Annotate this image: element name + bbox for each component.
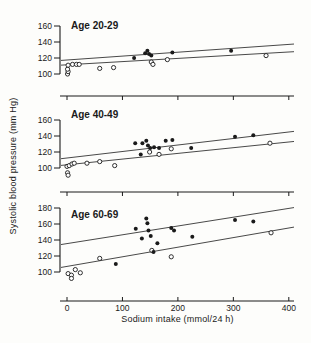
data-point-filled xyxy=(157,146,161,150)
data-point-open xyxy=(264,54,268,58)
data-point-open xyxy=(78,271,82,275)
y-tick-label: 140 xyxy=(38,235,52,245)
data-point-open xyxy=(269,231,273,235)
data-point-open xyxy=(85,161,89,165)
data-point-filled xyxy=(147,228,151,232)
y-tick-label: 160 xyxy=(38,115,52,125)
data-point-filled xyxy=(144,216,148,220)
lower-regression xyxy=(61,227,294,267)
y-tick-label: 100 xyxy=(38,69,52,79)
data-point-open xyxy=(113,164,117,168)
data-point-open xyxy=(151,62,155,66)
data-point-filled xyxy=(170,138,174,142)
data-point-filled xyxy=(133,141,137,145)
data-point-filled xyxy=(233,218,237,222)
data-point-filled xyxy=(140,141,144,145)
data-point-filled xyxy=(172,228,176,232)
x-axis-title: Sodium intake (mmol/24 h) xyxy=(60,314,295,324)
panel-title: Age 20-29 xyxy=(71,20,119,31)
data-point-filled xyxy=(139,152,143,156)
data-point-filled xyxy=(152,145,156,149)
y-tick-label: 140 xyxy=(38,37,52,47)
x-tick-label: 400 xyxy=(282,303,296,313)
x-tick-label: 100 xyxy=(115,303,129,313)
data-point-open xyxy=(72,161,76,165)
data-point-filled xyxy=(134,227,138,231)
data-point-filled xyxy=(132,56,136,60)
data-point-filled xyxy=(148,146,152,150)
x-tick-label: 0 xyxy=(65,303,70,313)
data-point-open xyxy=(77,62,81,66)
y-axis-title: Systolic blood pressure (mm Hg) xyxy=(8,56,18,276)
data-point-filled xyxy=(114,262,118,266)
data-point-filled xyxy=(140,236,144,240)
data-point-filled xyxy=(170,50,174,54)
data-point-open xyxy=(73,268,77,272)
data-point-filled xyxy=(229,49,233,53)
data-point-filled xyxy=(144,139,148,143)
y-tick-label: 120 xyxy=(38,53,52,63)
y-tick-label: 160 xyxy=(38,219,52,229)
y-tick-label: 100 xyxy=(38,267,52,277)
y-tick-label: 100 xyxy=(38,163,52,173)
data-point-filled xyxy=(145,221,149,225)
data-point-open xyxy=(98,160,102,164)
blood-pressure-sodium-figure: 100120140160Age 20-29100120140160Age 40-… xyxy=(0,0,311,343)
data-point-open xyxy=(165,58,169,62)
data-point-filled xyxy=(251,133,255,137)
data-point-open xyxy=(69,276,73,280)
x-tick-label: 300 xyxy=(226,303,240,313)
data-point-open xyxy=(268,141,272,145)
y-tick-label: 180 xyxy=(38,203,52,213)
data-point-open xyxy=(111,66,115,70)
data-point-filled xyxy=(190,235,194,239)
panel-title: Age 60-69 xyxy=(71,209,119,220)
x-tick-label: 200 xyxy=(171,303,185,313)
data-point-filled xyxy=(155,241,159,245)
data-point-open xyxy=(65,67,69,71)
data-point-open xyxy=(98,66,102,70)
y-tick-label: 120 xyxy=(38,147,52,157)
data-point-open xyxy=(98,256,102,260)
data-point-filled xyxy=(149,234,153,238)
y-tick-label: 140 xyxy=(38,131,52,141)
data-point-filled xyxy=(149,54,153,58)
data-point-open xyxy=(148,150,152,154)
data-point-open xyxy=(169,255,173,259)
y-tick-label: 120 xyxy=(38,251,52,261)
data-point-filled xyxy=(152,250,156,254)
data-point-open xyxy=(157,152,161,156)
data-point-filled xyxy=(233,135,237,139)
scatter-plot-canvas: 100120140160Age 20-29100120140160Age 40-… xyxy=(0,0,311,343)
panel-title: Age 40-49 xyxy=(71,109,119,120)
lower-regression xyxy=(61,52,294,65)
upper-regression xyxy=(61,44,294,60)
data-point-open xyxy=(66,63,70,67)
data-point-filled xyxy=(164,139,168,143)
data-point-filled xyxy=(189,146,193,150)
data-point-open xyxy=(66,173,70,177)
data-point-open xyxy=(169,147,173,151)
y-tick-label: 160 xyxy=(38,21,52,31)
data-point-filled xyxy=(251,220,255,224)
